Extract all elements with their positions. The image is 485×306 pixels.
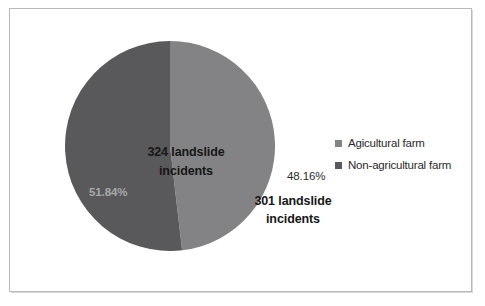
legend-item-agicultural-farm[interactable]: Agicultural farm <box>335 132 471 154</box>
slice-percent-non-agricultural-farm: 51.84% <box>85 186 245 200</box>
slice-count-line2: incidents <box>159 164 213 178</box>
chart-legend: Agicultural farm Non-agricultural farm <box>335 132 471 176</box>
slice-count-line2: incidents <box>266 212 320 226</box>
slice-count-line1: 324 landslide <box>147 145 224 159</box>
slice-label-agicultural-farm: 48.16% 301 landslide incidents <box>233 170 353 228</box>
legend-swatch-icon <box>335 140 342 147</box>
chart-frame: 324 landslide incidents 51.84% 48.16% 30… <box>9 8 472 292</box>
legend-label: Agicultural farm <box>348 137 425 149</box>
slice-count-line1: 301 landslide <box>254 194 331 208</box>
pie-chart: 324 landslide incidents 51.84% 48.16% 30… <box>65 41 275 251</box>
legend-item-non-agricultural-farm[interactable]: Non-agricultural farm <box>335 154 471 176</box>
legend-swatch-icon <box>335 162 342 169</box>
legend-label: Non-agricultural farm <box>348 159 451 171</box>
slice-label-non-agricultural-farm: 324 landslide incidents 51.84% <box>127 142 245 199</box>
chart-screenshot: 324 landslide incidents 51.84% 48.16% 30… <box>0 0 485 306</box>
